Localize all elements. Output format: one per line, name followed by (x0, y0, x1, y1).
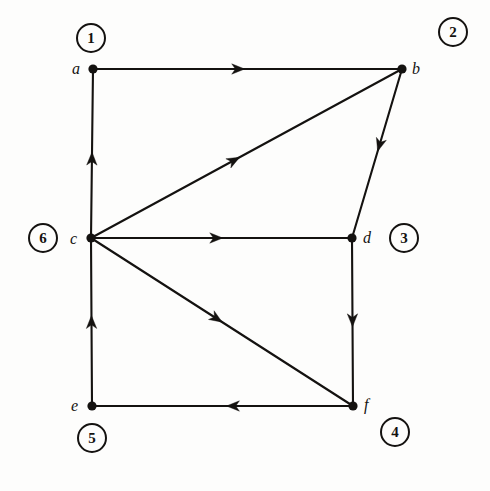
order-badge-number: 1 (87, 29, 95, 46)
order-badge-number: 4 (391, 423, 399, 440)
order-badge-1: 1 (76, 23, 106, 53)
graph-edge (352, 69, 402, 238)
order-badge-4: 4 (380, 417, 410, 447)
order-badge-3: 3 (389, 223, 419, 253)
graph-node-dot[interactable] (86, 233, 95, 242)
order-badge-number: 3 (400, 229, 408, 246)
edge-arrowhead (208, 311, 222, 322)
order-badge-6: 6 (28, 223, 58, 253)
node-label-b: b (412, 61, 420, 77)
graph-node-dot[interactable] (397, 64, 406, 73)
order-badge-5: 5 (77, 423, 107, 453)
graph-node-dot[interactable] (347, 233, 356, 242)
graph-node-dot[interactable] (88, 64, 97, 73)
order-badge-2: 2 (438, 17, 468, 47)
graph-node-dot[interactable] (348, 401, 357, 410)
order-badge-number: 2 (449, 23, 457, 40)
directed-graph-figure: abcdef 123456 (0, 0, 490, 491)
graph-edge (91, 69, 402, 238)
order-badge-number: 5 (88, 429, 96, 446)
node-label-f: f (364, 397, 368, 413)
node-label-e: e (71, 398, 78, 414)
node-label-d: d (363, 230, 371, 246)
node-label-c: c (70, 231, 77, 247)
node-label-a: a (72, 61, 80, 77)
order-badge-number: 6 (39, 229, 47, 246)
graph-node-dot[interactable] (87, 401, 96, 410)
